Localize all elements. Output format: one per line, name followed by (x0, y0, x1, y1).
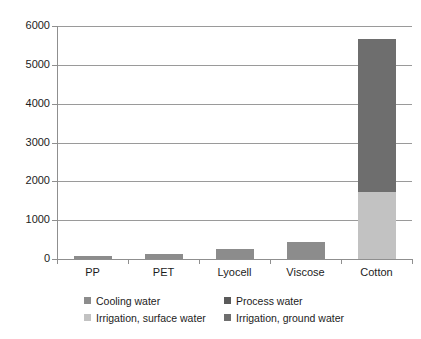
legend-item-label: Process water (236, 295, 303, 307)
y-axis-tick-label: 0 (4, 253, 50, 264)
water-consumption-stacked-bar-chart: 0100020003000400050006000 PPPETLyocellVi… (0, 0, 421, 339)
legend-swatch-icon (84, 314, 91, 321)
x-axis-tick (412, 259, 413, 264)
legend-item-label: Irrigation, ground water (236, 312, 344, 324)
bar-group[interactable] (145, 0, 183, 259)
bar-group[interactable] (216, 0, 254, 259)
x-axis-tick-label: Lyocell (199, 266, 270, 279)
legend-item[interactable]: Irrigation, surface water (84, 312, 224, 324)
legend-item-label: Cooling water (96, 295, 160, 307)
x-axis-tick (128, 259, 129, 264)
bar-segment[interactable] (216, 249, 254, 259)
x-axis-tick (341, 259, 342, 264)
x-axis-tick-label: Viscose (270, 266, 341, 279)
y-axis: 0100020003000400050006000 (0, 0, 50, 339)
y-axis-tick-label: 1000 (4, 214, 50, 225)
x-axis-tick-label: PP (57, 266, 128, 279)
legend-swatch-icon (224, 314, 231, 321)
y-axis-tick-label: 5000 (4, 59, 50, 70)
y-axis-tick-label: 4000 (4, 98, 50, 109)
y-axis-line (57, 26, 58, 260)
bar-group[interactable] (74, 0, 112, 259)
legend-item[interactable]: Irrigation, ground water (224, 312, 374, 324)
legend-swatch-icon (224, 297, 231, 304)
x-axis-tick-label: Cotton (341, 266, 412, 279)
y-axis-tick-label: 6000 (4, 20, 50, 31)
legend-item[interactable]: Cooling water (84, 295, 224, 307)
legend-item-label: Irrigation, surface water (96, 312, 206, 324)
bar-group[interactable] (287, 0, 325, 259)
y-axis-tick-label: 3000 (4, 137, 50, 148)
legend-item[interactable]: Process water (224, 295, 374, 307)
bar-segment[interactable] (358, 39, 396, 192)
x-axis-tick (199, 259, 200, 264)
x-axis-line (57, 259, 412, 260)
x-axis-tick (270, 259, 271, 264)
bar-segment[interactable] (287, 242, 325, 259)
legend-swatch-icon (84, 297, 91, 304)
bar-segment[interactable] (74, 256, 112, 259)
x-axis-tick (57, 259, 58, 264)
bar-segment[interactable] (145, 254, 183, 259)
x-axis-tick-label: PET (128, 266, 199, 279)
bar-segment[interactable] (358, 192, 396, 259)
y-axis-tick-label: 2000 (4, 175, 50, 186)
bar-group[interactable] (358, 0, 396, 259)
chart-legend: Cooling waterProcess waterIrrigation, su… (84, 292, 374, 326)
